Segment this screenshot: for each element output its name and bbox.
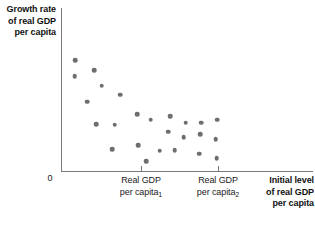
scatter-point [144, 159, 149, 164]
scatter-point [94, 122, 99, 127]
scatter-point [72, 74, 77, 79]
x-axis-tick-label-1-line-2: per capita1 [101, 187, 181, 199]
scatter-point [85, 99, 90, 104]
scatter-point [99, 83, 104, 88]
x-axis-tick-label-1-line-1: Real GDP [101, 175, 181, 187]
x-axis-title-line-1: Initial level [250, 175, 314, 187]
y-axis-title-line-3: per capita [0, 27, 56, 39]
x-axis-tick-label-2-line-1: Real GDP [178, 175, 258, 187]
scatter-point [112, 122, 117, 127]
y-axis-title: Growth rate of real GDP per capita [0, 4, 56, 39]
y-axis-title-line-2: of real GDP [0, 16, 56, 28]
scatter-point [199, 120, 204, 125]
y-axis-title-line-1: Growth rate [0, 4, 56, 16]
scatter-point [181, 135, 186, 140]
scatter-point [166, 129, 171, 134]
scatter-point [157, 148, 162, 153]
y-axis-line [61, 8, 62, 172]
x-axis-tick-2 [218, 166, 219, 172]
origin-label: 0 [44, 173, 56, 183]
scatter-point [135, 112, 140, 117]
scatter-point [110, 147, 115, 152]
scatter-point [215, 117, 220, 122]
x-axis-tick-label-2-line-2: per capita2 [178, 187, 258, 199]
scatter-point [92, 68, 97, 73]
x-axis-tick-label-1-text: per capita [120, 187, 159, 197]
scatter-point [168, 114, 173, 119]
x-axis-line [61, 171, 313, 172]
x-axis-tick-label-2-subscript: 2 [235, 191, 239, 198]
scatter-point [198, 132, 203, 137]
x-axis-title: Initial level of real GDP per capita [250, 175, 314, 210]
x-axis-tick-label-2: Real GDP per capita2 [178, 175, 258, 198]
scatter-point [214, 156, 219, 161]
x-axis-tick-label-1-subscript: 1 [158, 191, 162, 198]
scatter-point [118, 92, 123, 97]
scatter-point [197, 151, 202, 156]
scatter-chart-figure: Growth rate of real GDP per capita 0 Rea… [0, 0, 315, 225]
x-axis-tick-1 [141, 166, 142, 172]
scatter-point [172, 148, 177, 153]
scatter-point [136, 143, 141, 148]
scatter-point [73, 58, 78, 63]
scatter-point [183, 120, 188, 125]
scatter-point [213, 137, 218, 142]
x-axis-tick-label-1: Real GDP per capita1 [101, 175, 181, 198]
x-axis-tick-label-2-text: per capita [197, 187, 236, 197]
x-axis-title-line-2: of real GDP [250, 187, 314, 199]
x-axis-title-line-3: per capita [250, 198, 314, 210]
scatter-point [148, 117, 153, 122]
